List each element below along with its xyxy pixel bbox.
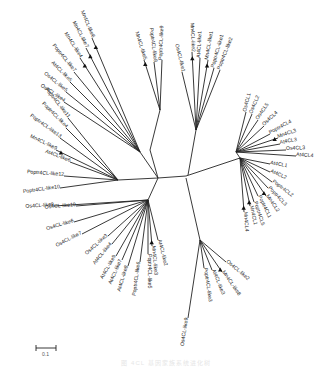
triangle-marker-icon	[94, 45, 98, 49]
leaf-label: Poptr4CL-like9	[157, 25, 164, 60]
leaf-branch	[236, 152, 296, 156]
leaf-label: Mn4CL4	[243, 212, 250, 232]
leaf-label: Os4CL-like7	[54, 230, 82, 248]
leaf-label: Os4CL-like1	[174, 43, 187, 72]
leaf-label: At4CL2	[270, 167, 288, 180]
left-cluster: Poptr4CL-like11Poptr4CL-like4Poptr4CL-li…	[22, 86, 118, 194]
leaf-label: Mn4CL-like9	[29, 133, 58, 151]
phylogenetic-tree: Mn4CL-like6Mn4CL-like7Mn4CL-like4Poptr4C…	[0, 0, 332, 372]
right-lower-cluster: At4CL1At4CL2Poptr4CL2Poptr4CL3Mn4CL2Popt…	[240, 158, 295, 232]
leaf-label: Poptr4CL-like6	[131, 261, 141, 296]
leaf-label: At4CL-like6	[45, 148, 72, 163]
leaf-label: Os4CL-like10	[44, 201, 76, 210]
leaf-branch	[70, 82, 140, 152]
leaf-branch	[154, 62, 160, 110]
leaf-branch	[112, 200, 148, 244]
leaf-label: Poptr4CL-like12	[27, 168, 65, 177]
triangle-marker-icon	[218, 267, 222, 271]
leaf-branch	[192, 52, 196, 130]
leaf-branch	[92, 38, 140, 152]
leaf-label: Os4CL-like9	[179, 317, 189, 346]
top-cluster: Os4CL-like1Mn4CL-like2At4CL-like1Mn4CL-l…	[174, 23, 233, 130]
leaf-branch	[160, 60, 162, 110]
triangle-marker-icon	[83, 64, 87, 68]
upper-center-cluster: Mn4CL-like5Poptr4CL-like8Poptr4CL-like9	[134, 25, 164, 110]
leaf-branch	[188, 240, 200, 318]
leaf-label: At4CL-like1	[195, 31, 202, 58]
right-upper-cluster: Os4CL1Os4CL2Os4CL5Os4CL4Poptr4CL4Mn4CL3A…	[236, 92, 314, 158]
triangle-marker-icon	[88, 54, 92, 58]
triangle-marker-icon	[241, 206, 245, 210]
tree-leaves: Mn4CL-like6Mn4CL-like7Mn4CL-like4Poptr4C…	[22, 9, 313, 346]
leaf-label: At4CL4	[296, 151, 314, 158]
leaf-branch	[86, 48, 140, 152]
leaf-branch	[144, 60, 160, 110]
leaf-branch	[74, 72, 140, 152]
leaf-branch	[80, 58, 140, 152]
scale-bar: 0.1	[36, 345, 56, 357]
leaf-label: Poptr4CL-like5	[147, 254, 153, 288]
leaf-label: Poptr4CL-like10	[22, 183, 60, 194]
triangle-marker-icon	[247, 200, 251, 204]
leaf-branch	[128, 200, 148, 266]
triangle-marker-icon	[190, 56, 194, 60]
leaf-branch	[66, 128, 118, 180]
leaf-branch	[66, 92, 140, 152]
triangle-marker-icon	[272, 137, 276, 141]
triangle-marker-icon	[149, 240, 153, 244]
bottom-cluster: Os4CL-like9Poptr4CL-like3At4CL-like3Mn4C…	[179, 240, 251, 346]
leaf-label: Mn4CL-like5	[134, 31, 149, 61]
leaf-branch	[60, 180, 118, 188]
lower-left-cluster: Os4CL-like8Os4CL-like10Os4CL-like6Os4CL-…	[25, 200, 169, 296]
leaf-branch	[196, 70, 220, 130]
scale-bar-label: 0.1	[42, 351, 49, 357]
leaf-branch	[236, 138, 278, 152]
triangle-marker-icon	[143, 62, 147, 66]
leaf-label: Os4CL-like6	[45, 217, 74, 231]
figure-caption: 图 4CL 基因家族系统进化树	[0, 358, 332, 367]
leaf-branch	[240, 158, 254, 202]
